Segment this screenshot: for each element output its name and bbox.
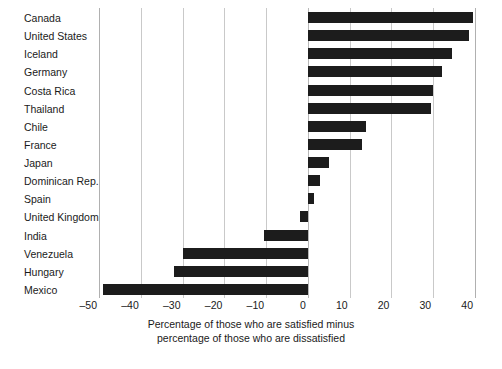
bar-row — [99, 172, 475, 190]
x-tick-label-40: 40 — [461, 298, 475, 312]
x-axis-tick-labels: –50–40–30–20–10010203040 — [99, 298, 475, 316]
category-label: France — [24, 136, 57, 154]
category-axis-labels: CanadaUnited StatesIcelandGermanyCosta R… — [0, 8, 99, 298]
x-tick-label-10: 10 — [336, 298, 350, 312]
bar — [308, 139, 362, 150]
bar — [264, 230, 308, 241]
category-label: United States — [24, 27, 87, 45]
gridline-40 — [475, 8, 476, 298]
bar — [183, 248, 308, 259]
category-label: Costa Rica — [24, 82, 75, 100]
category-label: Venezuela — [24, 245, 73, 263]
bar — [308, 121, 366, 132]
category-label: Japan — [24, 154, 53, 172]
bar-row — [99, 136, 475, 154]
bar-row — [99, 9, 475, 27]
bar-row — [99, 118, 475, 136]
bar — [308, 12, 473, 23]
x-tick-label-0: 0 — [300, 298, 308, 312]
bar-row — [99, 63, 475, 81]
x-tick-label--20: –20 — [205, 298, 225, 312]
bar-row — [99, 227, 475, 245]
bar — [308, 48, 452, 59]
x-tick-label--40: –40 — [121, 298, 141, 312]
bar-row — [99, 100, 475, 118]
bar-row — [99, 263, 475, 281]
bar-rows — [99, 8, 475, 298]
bar-row — [99, 82, 475, 100]
bar — [174, 266, 308, 277]
bar-row — [99, 245, 475, 263]
x-axis-caption: Percentage of those who are satisfied mi… — [0, 318, 502, 345]
x-tick-label--10: –10 — [247, 298, 267, 312]
plot-area — [99, 8, 475, 298]
bar — [308, 66, 442, 77]
bar — [308, 85, 433, 96]
category-label: Mexico — [24, 281, 57, 299]
bar-row — [99, 190, 475, 208]
x-tick-label--50: –50 — [79, 298, 99, 312]
bar-row — [99, 281, 475, 299]
x-tick-label--30: –30 — [163, 298, 183, 312]
bar-row — [99, 45, 475, 63]
bar — [308, 157, 329, 168]
category-label: Germany — [24, 63, 67, 81]
category-label: India — [24, 227, 47, 245]
category-label: United Kingdom — [24, 208, 99, 226]
bar — [300, 211, 308, 222]
bar — [308, 103, 431, 114]
x-axis-caption-line-2: percentage of those who are dissatisfied — [0, 332, 502, 346]
category-label: Thailand — [24, 100, 64, 118]
bar — [103, 284, 308, 295]
bar-row — [99, 154, 475, 172]
bar — [308, 30, 469, 41]
bar-row — [99, 27, 475, 45]
x-tick-label-30: 30 — [420, 298, 434, 312]
bar-row — [99, 208, 475, 226]
category-label: Hungary — [24, 263, 64, 281]
x-axis-caption-line-1: Percentage of those who are satisfied mi… — [0, 318, 502, 332]
category-label: Dominican Rep. — [24, 172, 99, 190]
category-label: Chile — [24, 118, 48, 136]
x-tick-label-20: 20 — [378, 298, 392, 312]
category-label: Iceland — [24, 45, 58, 63]
category-label: Canada — [24, 9, 61, 27]
bar — [308, 193, 314, 204]
category-label: Spain — [24, 190, 51, 208]
chart-figure: CanadaUnited StatesIcelandGermanyCosta R… — [0, 0, 502, 369]
bar — [308, 175, 321, 186]
